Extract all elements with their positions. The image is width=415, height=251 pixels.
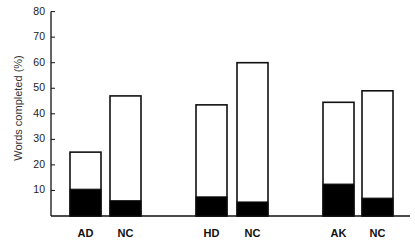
- x-tick-label: NC: [358, 227, 398, 239]
- bar-black-nc: [362, 198, 393, 216]
- bar-black-nc: [237, 202, 268, 216]
- x-tick-label: AK: [319, 227, 359, 239]
- bar-black-nc: [110, 201, 141, 216]
- x-tick-label: HD: [192, 227, 232, 239]
- bar-black-hd: [196, 197, 227, 216]
- y-tick-label: 30: [25, 132, 45, 144]
- bar-total-nc: [362, 91, 393, 216]
- bar-black-ak: [323, 184, 354, 216]
- x-tick-label: NC: [106, 227, 146, 239]
- stacked-bar-chart: Words completed (%) 1020304050607080 ADN…: [0, 0, 415, 251]
- y-tick-label: 50: [25, 81, 45, 93]
- plot-area: [0, 0, 415, 251]
- y-tick-label: 20: [25, 158, 45, 170]
- y-tick-label: 80: [25, 5, 45, 17]
- x-tick-label: NC: [233, 227, 273, 239]
- y-tick-label: 70: [25, 30, 45, 42]
- bar-total-nc: [110, 96, 141, 216]
- bar-black-ad: [70, 189, 101, 216]
- y-tick-label: 40: [25, 107, 45, 119]
- x-tick-label: AD: [66, 227, 106, 239]
- bar-total-nc: [237, 63, 268, 216]
- y-tick-label: 60: [25, 56, 45, 68]
- y-tick-label: 10: [25, 183, 45, 195]
